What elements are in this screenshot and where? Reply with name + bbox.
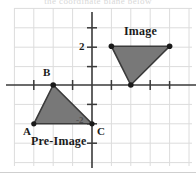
- image-vertex-3-point[interactable]: [128, 82, 134, 88]
- image-vertex-1-point[interactable]: [109, 43, 115, 49]
- shape-label-image: Image: [124, 25, 157, 37]
- vertex-label-c: C: [97, 126, 105, 137]
- vertex-a-point[interactable]: [31, 121, 36, 126]
- vertex-b-point[interactable]: [50, 82, 56, 88]
- coordinate-plane-figure: [0, 0, 196, 173]
- vertex-label-a: A: [23, 126, 31, 137]
- y-axis-tick-label-2: 2: [79, 41, 85, 52]
- bottom-divider: [0, 172, 196, 173]
- x-axis-tick-label-neg2: -2: [76, 116, 84, 125]
- vertex-label-b: B: [43, 67, 50, 78]
- plot-background: [0, 8, 196, 166]
- vertex-c-point[interactable]: [89, 121, 94, 126]
- image-vertex-2-point[interactable]: [167, 43, 173, 49]
- shape-label-pre-image: Pre-Image: [31, 135, 87, 147]
- coordinate-grid-svg: [0, 0, 196, 173]
